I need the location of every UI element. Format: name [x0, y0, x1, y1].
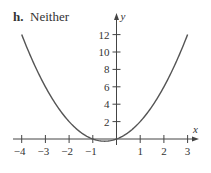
y-tick-label: 10 [99, 46, 111, 58]
y-tick-label: 4 [104, 98, 110, 110]
y-tick-label: 12 [99, 29, 110, 41]
x-tick-label: −3 [38, 145, 50, 157]
x-tick-label: 1 [137, 145, 143, 157]
panel-title: Neither [30, 9, 70, 24]
x-tick-label: 2 [161, 145, 167, 157]
y-tick-label: 2 [104, 116, 110, 128]
x-axis-label: x [192, 123, 198, 135]
x-tick-label: 3 [185, 145, 191, 157]
x-tick-label: −1 [85, 145, 97, 157]
y-tick-label: 8 [104, 63, 110, 75]
y-axis-arrow-icon [114, 13, 119, 20]
y-tick-label: 6 [104, 81, 110, 93]
x-tick-label: −2 [61, 145, 73, 157]
x-axis-arrow-icon [192, 137, 199, 142]
x-tick-label: −4 [14, 145, 26, 157]
panel-letter: h. [13, 9, 23, 24]
y-axis-label: y [120, 10, 126, 22]
parabola-chart: h. Neither −4−3−2−112324681012 x y [0, 0, 211, 173]
